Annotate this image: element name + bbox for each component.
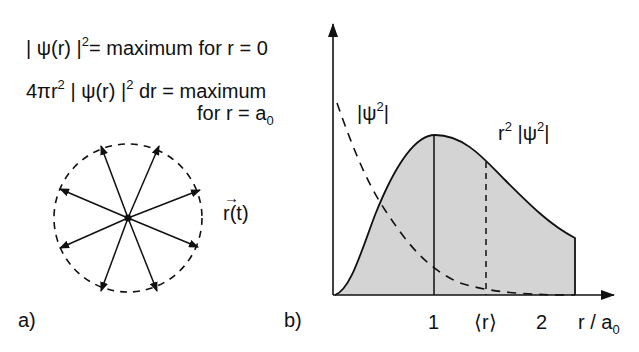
figure: | ψ(r) |2= maximum for r = 0 4πr2 | ψ(r)… (0, 0, 639, 352)
figure-graphics (0, 0, 639, 352)
electron-orbit-diagram (54, 144, 202, 292)
r2-psi2-area (335, 135, 575, 295)
radial-probability-plot (333, 24, 614, 295)
